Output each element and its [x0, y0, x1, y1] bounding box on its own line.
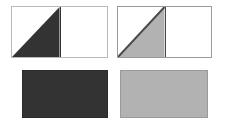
panel-top-right-gray-triangle[interactable]	[117, 6, 212, 58]
dark-swatch-fill	[23, 71, 107, 117]
dark-triangle-shape	[12, 7, 60, 57]
center-divider-line	[165, 7, 166, 57]
center-divider-line	[60, 7, 61, 57]
panel-top-left-dark-triangle[interactable]	[11, 6, 108, 58]
shape-canvas	[0, 0, 225, 128]
light-swatch-fill	[121, 71, 207, 117]
panel-top-right-inner	[118, 7, 211, 57]
panel-bottom-left-dark-swatch[interactable]	[22, 70, 108, 118]
gray-triangle-outline	[118, 7, 165, 57]
panel-bottom-right-light-swatch[interactable]	[120, 70, 208, 118]
panel-top-left-inner	[12, 7, 107, 57]
